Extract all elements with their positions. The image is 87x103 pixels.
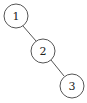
tree-node-2: 2 xyxy=(31,39,55,63)
node-label-3: 3 xyxy=(69,80,76,93)
node-label-1: 1 xyxy=(13,10,20,23)
edge-2-3 xyxy=(51,60,64,76)
edge-1-2 xyxy=(23,26,36,41)
node-label-2: 2 xyxy=(40,45,47,58)
tree-node-1: 1 xyxy=(4,4,28,28)
tree-diagram: 1 2 3 xyxy=(0,0,87,103)
tree-node-3: 3 xyxy=(60,74,84,98)
